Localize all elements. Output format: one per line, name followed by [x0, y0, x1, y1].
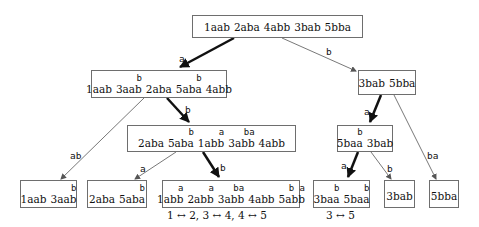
marker-superscript: b a	[279, 184, 305, 193]
edge-l1right-l2right	[370, 95, 381, 122]
node-leaf-3: 1abba2abba3abbba4abb5abbb a	[162, 180, 300, 208]
marker-superscript: b	[168, 128, 194, 137]
word-token: 1abba	[198, 137, 224, 149]
word-token: 3bab	[367, 137, 393, 149]
edge-l2mid-leaf3	[203, 152, 219, 177]
marker-superscript: ba	[218, 184, 244, 193]
word-token: 3bab	[294, 21, 320, 33]
word-text: 3bab	[294, 21, 320, 33]
marker-superscript: b	[116, 74, 142, 83]
word-token: 4abb	[264, 21, 290, 33]
node-l2-right: 5baab3bab	[337, 125, 393, 152]
word-text: 5baa	[344, 193, 370, 205]
word-text: 3bab	[367, 137, 393, 149]
word-text: 5abb	[279, 193, 305, 205]
word-text: 5bba	[325, 21, 351, 33]
edge-l1right-leaf6	[394, 95, 436, 179]
word-token: 3abbba	[228, 137, 254, 149]
edge-label: a	[179, 53, 185, 64]
marker-superscript: b	[119, 184, 145, 193]
word-token: 3aabb	[116, 83, 142, 95]
node-leaf-1: 1aab3aabb	[20, 180, 77, 208]
swap-annotation-leaf4: 3 ↔ 5	[326, 209, 355, 221]
marker-superscript: b	[337, 128, 363, 137]
word-text: 5baa	[337, 137, 363, 149]
word-token: 5baab	[344, 193, 370, 205]
word-token: 1aab	[204, 21, 230, 33]
marker-superscript: b	[176, 74, 202, 83]
word-token: 5bba	[325, 21, 351, 33]
word-token: 5abbb a	[279, 193, 305, 205]
marker-superscript: a	[157, 184, 183, 193]
word-text: 5bba	[431, 190, 457, 202]
edge-label: b	[387, 163, 393, 174]
word-token: 3bab	[359, 77, 385, 89]
word-token: 5abab	[176, 83, 202, 95]
marker-superscript: b	[314, 184, 340, 193]
word-text: 5aba	[168, 137, 194, 149]
word-text: 2aba	[89, 193, 115, 205]
word-text: 1aab	[204, 21, 230, 33]
word-text: 3aab	[116, 83, 142, 95]
word-token: 2aba	[138, 137, 164, 149]
word-token: 5baab	[337, 137, 363, 149]
word-text: 2abb	[187, 193, 213, 205]
word-text: 3abb	[228, 137, 254, 149]
edge-l2right-leaf4	[348, 152, 358, 177]
edge-label: ab	[70, 150, 81, 161]
word-token: 5abab	[168, 137, 194, 149]
word-token: 5abab	[119, 193, 145, 205]
word-text: 3abb	[218, 193, 244, 205]
edge-label: a	[341, 160, 347, 171]
swap-annotation-leaf3: 1 ↔ 2, 3 ↔ 4, 4 ↔ 5	[167, 209, 267, 221]
word-token: 4abb	[248, 193, 274, 205]
word-text: 1aab	[21, 193, 47, 205]
marker-superscript: ba	[228, 128, 254, 137]
word-token: 2aba	[146, 83, 172, 95]
word-token: 2aba	[234, 21, 260, 33]
edge-label: b	[326, 46, 332, 57]
word-text: 2aba	[146, 83, 172, 95]
word-token: 3baab	[314, 193, 340, 205]
node-l1-left: 1aab3aabb2aba5abab4abb	[91, 70, 227, 98]
word-text: 2aba	[234, 21, 260, 33]
word-text: 4abb	[259, 137, 285, 149]
node-l1-right: 3bab5bba	[358, 70, 416, 95]
word-token: 3bab	[386, 190, 412, 202]
node-leaf-4: 3baab5baab	[313, 180, 370, 208]
word-text: 1abb	[157, 193, 183, 205]
edge-label: ba	[427, 150, 438, 161]
word-text: 5aba	[176, 83, 202, 95]
node-leaf-5: 3bab	[384, 180, 415, 208]
word-text: 2aba	[138, 137, 164, 149]
word-token: 2abba	[187, 193, 213, 205]
word-token: 1aab	[86, 83, 112, 95]
marker-superscript: b	[344, 184, 370, 193]
word-text: 3bab	[386, 190, 412, 202]
edge-root-l1right	[282, 38, 356, 71]
word-text: 4abb	[248, 193, 274, 205]
word-text: 1aab	[86, 83, 112, 95]
word-token: 4abb	[259, 137, 285, 149]
node-l2-mid: 2aba5abab1abba3abbba4abb	[127, 125, 296, 152]
node-root: 1aab2aba4abb3bab5bba	[192, 15, 363, 38]
marker-superscript: a	[187, 184, 213, 193]
word-token: 5bba	[389, 77, 415, 89]
word-token: 3aabb	[51, 193, 77, 205]
word-text: 3bab	[359, 77, 385, 89]
word-token: 3abbba	[218, 193, 244, 205]
marker-superscript: b	[51, 184, 77, 193]
edge-label: a	[364, 106, 370, 117]
word-token: 2aba	[89, 193, 115, 205]
edge-root-l1left	[180, 38, 234, 67]
edge-label: b	[185, 104, 191, 115]
word-token: 5bba	[431, 190, 457, 202]
word-text: 3baa	[314, 193, 340, 205]
word-text: 4abb	[206, 83, 232, 95]
edge-label: b	[220, 162, 226, 173]
word-token: 4abb	[206, 83, 232, 95]
node-leaf-2: 2aba5abab	[87, 180, 147, 208]
word-text: 5bba	[389, 77, 415, 89]
word-token: 1abba	[157, 193, 183, 205]
word-text: 5aba	[119, 193, 145, 205]
